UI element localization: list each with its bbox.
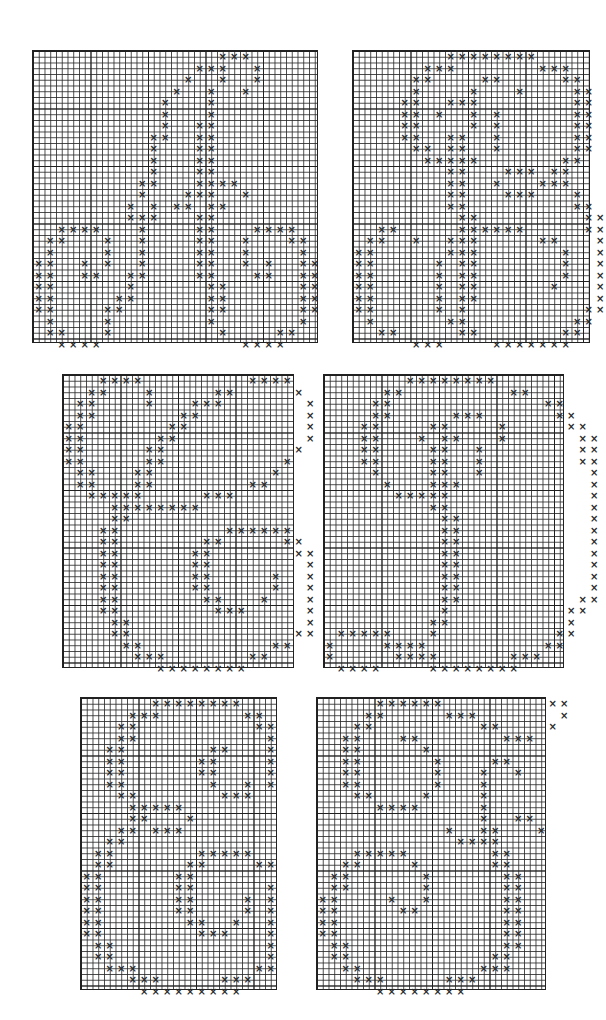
stitch-mark-icon: × [595, 281, 606, 293]
stitch-mark-icon: × [491, 143, 503, 155]
stitch-mark-icon: × [116, 733, 128, 745]
stitch-mark-icon: × [399, 120, 411, 132]
stitch-mark-icon: × [213, 536, 225, 548]
stitch-mark-icon: × [560, 247, 572, 259]
stitch-mark-icon: × [93, 882, 105, 894]
stitch-mark-icon: × [513, 733, 525, 745]
stitch-mark-icon: × [293, 387, 305, 399]
stitch-mark-icon: × [382, 628, 394, 640]
stitch-mark-icon: × [206, 97, 218, 109]
stitch-mark-icon: × [399, 132, 411, 144]
stitch-mark-icon: × [457, 316, 469, 328]
stitch-mark-icon: × [305, 582, 317, 594]
stitch-mark-icon: × [56, 339, 68, 351]
stitch-mark-icon: × [206, 304, 218, 316]
stitch-mark-icon: × [104, 756, 116, 768]
stitch-mark-icon: × [537, 63, 549, 75]
stitch-mark-icon: × [93, 871, 105, 883]
stitch-mark-icon: × [560, 155, 572, 167]
stitch-mark-icon: × [102, 304, 114, 316]
stitch-mark-icon: × [259, 375, 271, 387]
stitch-mark-icon: × [478, 779, 490, 791]
stitch-mark-icon: × [501, 940, 513, 952]
stitch-mark-icon: × [451, 433, 463, 445]
stitch-mark-icon: × [121, 375, 133, 387]
stitch-mark-icon: × [352, 848, 364, 860]
stitch-mark-icon: × [298, 304, 310, 316]
stitch-mark-icon: × [363, 721, 375, 733]
stitch-mark-icon: × [155, 663, 167, 675]
stitch-mark-icon: × [439, 617, 451, 629]
stitch-mark-icon: × [275, 339, 287, 351]
stitch-mark-icon: × [265, 963, 277, 975]
stitch-mark-icon: × [173, 894, 185, 906]
stitch-mark-icon: × [445, 155, 457, 167]
stitch-mark-icon: × [206, 63, 218, 75]
stitch-mark-icon: × [589, 513, 601, 525]
stitch-mark-icon: × [305, 433, 317, 445]
stitch-mark-icon: × [298, 270, 310, 282]
stitch-mark-icon: × [224, 663, 236, 675]
stitch-mark-icon: × [125, 270, 137, 282]
stitch-mark-icon: × [409, 698, 421, 710]
stitch-mark-icon: × [398, 802, 410, 814]
stitch-mark-icon: × [201, 548, 213, 560]
stitch-mark-icon: × [405, 651, 417, 663]
stitch-mark-icon: × [155, 433, 167, 445]
stitch-mark-icon: × [173, 802, 185, 814]
stitch-mark-icon: × [127, 790, 139, 802]
stitch-mark-icon: × [524, 813, 536, 825]
stitch-mark-icon: × [457, 327, 469, 339]
stitch-mark-icon: × [93, 940, 105, 952]
stitch-mark-icon: × [589, 582, 601, 594]
stitch-mark-icon: × [63, 421, 75, 433]
stitch-mark-icon: × [194, 132, 206, 144]
stitch-mark-icon: × [305, 421, 317, 433]
stitch-mark-icon: × [467, 710, 479, 722]
stitch-mark-icon: × [109, 571, 121, 583]
stitch-mark-icon: × [150, 698, 162, 710]
stitch-mark-icon: × [293, 628, 305, 640]
stitch-mark-icon: × [503, 224, 515, 236]
stitch-mark-icon: × [45, 235, 57, 247]
stitch-mark-icon: × [432, 779, 444, 791]
stitch-mark-icon: × [439, 421, 451, 433]
stitch-mark-icon: × [549, 235, 561, 247]
stitch-mark-icon: × [531, 651, 543, 663]
stitch-mark-icon: × [589, 559, 601, 571]
stitch-mark-icon: × [247, 375, 259, 387]
stitch-mark-icon: × [336, 628, 348, 640]
stitch-mark-icon: × [305, 559, 317, 571]
stitch-mark-icon: × [411, 97, 423, 109]
stitch-mark-icon: × [468, 51, 480, 63]
stitch-mark-icon: × [213, 398, 225, 410]
stitch-mark-icon: × [109, 525, 121, 537]
stitch-mark-icon: × [572, 155, 584, 167]
stitch-mark-icon: × [434, 270, 446, 282]
stitch-mark-icon: × [411, 86, 423, 98]
stitch-mark-icon: × [375, 698, 387, 710]
stitch-mark-icon: × [439, 490, 451, 502]
stitch-mark-icon: × [270, 467, 282, 479]
stitch-mark-icon: × [589, 479, 601, 491]
stitch-mark-icon: × [104, 940, 116, 952]
stitch-mark-icon: × [236, 525, 248, 537]
stitch-mark-icon: × [376, 224, 388, 236]
stitch-mark-icon: × [213, 663, 225, 675]
stitch-mark-icon: × [282, 640, 294, 652]
stitch-mark-icon: × [206, 189, 218, 201]
stitch-mark-icon: × [490, 825, 502, 837]
stitch-mark-icon: × [398, 698, 410, 710]
stitch-mark-icon: × [497, 433, 509, 445]
stitch-mark-icon: × [298, 316, 310, 328]
stitch-mark-icon: × [457, 201, 469, 213]
stitch-mark-icon: × [265, 882, 277, 894]
stitch-mark-icon: × [185, 894, 197, 906]
stitch-mark-icon: × [240, 86, 252, 98]
stitch-mark-icon: × [194, 235, 206, 247]
stitch-mark-icon: × [370, 398, 382, 410]
stitch-mark-icon: × [116, 767, 128, 779]
stitch-mark-icon: × [178, 502, 190, 514]
stitch-mark-icon: × [416, 433, 428, 445]
stitch-mark-icon: × [109, 594, 121, 606]
